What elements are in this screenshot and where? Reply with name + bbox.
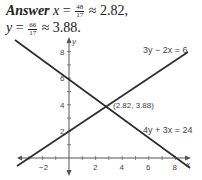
- y-axis-down-arrow-icon: [67, 170, 72, 176]
- y-axis-arrow-icon: [67, 37, 72, 43]
- x-tick-label: 2: [93, 163, 98, 172]
- y-axis-label: y: [71, 37, 77, 46]
- x-tick-label: 6: [146, 163, 151, 172]
- x-tick-label: −2: [39, 163, 49, 172]
- chart: −2 2 4 6 8 x 2 4 6 8 y 3y − 2x = 6 4y + …: [0, 0, 202, 180]
- line-3y-minus-2x-eq-6: [17, 52, 188, 166]
- intersection-label: (2.82, 3.88): [113, 101, 154, 110]
- y-tick-label: 4: [60, 101, 65, 110]
- line2-label: 4y + 3x = 24: [143, 125, 193, 135]
- x-tick-label: 8: [173, 163, 178, 172]
- line1-label: 3y − 2x = 6: [143, 45, 188, 55]
- line-4y-plus-3x-eq-24: [15, 40, 190, 168]
- x-axis-left-arrow-icon: [17, 156, 22, 161]
- x-tick-label: 4: [120, 163, 125, 172]
- y-tick-label: 8: [60, 48, 65, 57]
